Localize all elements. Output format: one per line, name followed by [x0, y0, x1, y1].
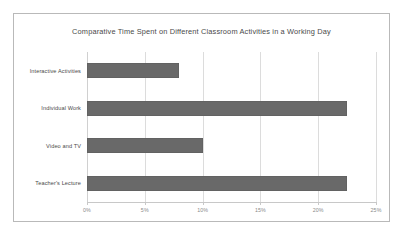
tick-mark — [145, 202, 146, 205]
x-tick-label: 25% — [361, 207, 391, 213]
bar-row: Individual Work — [87, 90, 376, 128]
bar-row: Video and TV — [87, 127, 376, 165]
x-axis-line — [87, 202, 376, 203]
category-label: Interactive Activities — [0, 68, 81, 74]
x-tick-label: 10% — [188, 207, 218, 213]
gridline — [376, 52, 377, 202]
chart-frame: Comparative Time Spent on Different Clas… — [13, 13, 390, 222]
bar-row: Teacher's Lecture — [87, 165, 376, 203]
bar[interactable] — [87, 176, 347, 191]
plot-area: Interactive ActivitiesIndividual WorkVid… — [87, 52, 376, 202]
tick-mark — [260, 202, 261, 205]
tick-mark — [376, 202, 377, 205]
bar[interactable] — [87, 63, 179, 78]
tick-mark — [87, 202, 88, 205]
category-label: Video and TV — [0, 143, 81, 149]
bar-row: Interactive Activities — [87, 52, 376, 90]
x-tick-label: 5% — [130, 207, 160, 213]
chart-title: Comparative Time Spent on Different Clas… — [14, 27, 389, 36]
category-label: Individual Work — [0, 105, 81, 111]
x-tick-label: 0% — [72, 207, 102, 213]
x-tick-label: 15% — [245, 207, 275, 213]
bar[interactable] — [87, 101, 347, 116]
bar-series: Interactive ActivitiesIndividual WorkVid… — [87, 52, 376, 202]
category-label: Teacher's Lecture — [0, 180, 81, 186]
x-tick-label: 20% — [303, 207, 333, 213]
tick-mark — [203, 202, 204, 205]
tick-mark — [318, 202, 319, 205]
bar[interactable] — [87, 138, 203, 153]
